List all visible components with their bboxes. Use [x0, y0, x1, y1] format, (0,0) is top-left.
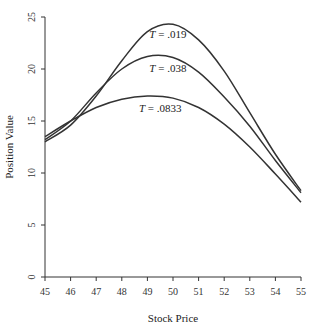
y-tick-label: 10: [26, 168, 37, 178]
x-tick-label: 54: [270, 286, 280, 297]
x-tick-label: 49: [142, 286, 152, 297]
x-tick-label: 55: [296, 286, 306, 297]
x-tick-label: 48: [117, 286, 127, 297]
x-tick-label: 47: [91, 286, 101, 297]
axes: 45464748495051525354550510152025: [26, 12, 306, 297]
curve-labels: T = .019T = .038T = .0833: [139, 28, 187, 114]
y-tick-label: 20: [26, 64, 37, 74]
x-tick-label: 45: [40, 286, 50, 297]
x-tick-label: 50: [168, 286, 178, 297]
x-tick-label: 53: [245, 286, 255, 297]
y-axis-title: Position Value: [3, 115, 15, 179]
line-chart: 45464748495051525354550510152025 T = .01…: [0, 0, 320, 330]
x-axis-title: Stock Price: [148, 312, 199, 324]
x-tick-label: 52: [219, 286, 229, 297]
curve-line: [45, 55, 301, 192]
y-tick-label: 15: [26, 116, 37, 126]
curve-label: T = .038: [149, 62, 187, 74]
y-tick-label: 5: [26, 223, 37, 228]
x-tick-label: 51: [194, 286, 204, 297]
y-tick-label: 0: [26, 275, 37, 280]
x-tick-label: 46: [66, 286, 76, 297]
curve-label: T = .0833: [139, 102, 182, 114]
curve-label: T = .019: [149, 28, 187, 40]
y-tick-label: 25: [26, 12, 37, 22]
